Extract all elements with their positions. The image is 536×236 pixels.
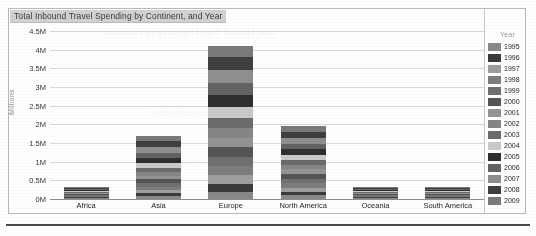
legend-label: 2003	[504, 131, 520, 139]
legend-label: 2009	[504, 197, 520, 205]
y-axis-tick: 2M	[36, 120, 46, 129]
x-axis-tick-labels: AfricaAsiaEuropeNorth AmericaOceaniaSout…	[50, 201, 484, 213]
bar-segment[interactable]	[208, 57, 253, 70]
legend-label: 1999	[504, 87, 520, 95]
legend-swatch	[488, 197, 501, 205]
legend-swatch	[488, 65, 501, 73]
legend-item[interactable]: 2001	[488, 107, 532, 118]
legend-item[interactable]: 1998	[488, 74, 532, 85]
y-axis-tick: 4M	[36, 45, 46, 54]
legend-swatch	[488, 175, 501, 183]
legend-item[interactable]: 1996	[488, 52, 532, 63]
legend-item[interactable]: 1999	[488, 85, 532, 96]
bar-segment[interactable]	[208, 83, 253, 95]
gridline	[50, 143, 484, 144]
legend-label: 1995	[504, 43, 520, 51]
bar-segment[interactable]	[208, 138, 253, 148]
gridline	[50, 124, 484, 125]
bar-segment[interactable]	[208, 118, 253, 128]
legend-label: 1996	[504, 54, 520, 62]
x-axis-tick: Asia	[151, 201, 166, 210]
bar-segment[interactable]	[208, 46, 253, 57]
y-axis-tick: 0M	[36, 195, 46, 204]
legend-swatch	[488, 120, 501, 128]
bar-segment[interactable]	[208, 166, 253, 175]
legend-label: 1997	[504, 65, 520, 73]
bar-segment[interactable]	[208, 95, 253, 106]
y-axis-tick: 1.5M	[29, 139, 46, 148]
legend-title: Year	[500, 31, 532, 38]
legend-label: 2001	[504, 109, 520, 117]
x-axis-tick: Oceania	[362, 201, 390, 210]
bar-segment[interactable]	[208, 70, 253, 83]
legend-item[interactable]: 2003	[488, 129, 532, 140]
x-axis-tick: North America	[279, 201, 327, 210]
page-horizontal-rule	[6, 224, 530, 226]
legend-label: 1998	[504, 76, 520, 84]
gridline	[50, 180, 484, 181]
legend-swatch	[488, 142, 501, 150]
legend-swatch	[488, 164, 501, 172]
x-axis-tick: Europe	[219, 201, 243, 210]
y-axis-tick-labels: 0M0.5M1M1.5M2M2.5M3M3.5M4M4.5M	[14, 31, 48, 199]
gridline	[50, 106, 484, 107]
gridline	[50, 162, 484, 163]
legend-item[interactable]: 2006	[488, 162, 532, 173]
legend-swatch	[488, 87, 501, 95]
plot-area	[50, 31, 484, 199]
bar-segment[interactable]	[208, 192, 253, 199]
legend-label: 2006	[504, 164, 520, 172]
y-axis-tick: 3M	[36, 83, 46, 92]
y-axis-tick: 2.5M	[29, 101, 46, 110]
legend-item[interactable]: 2008	[488, 184, 532, 195]
bar-segment[interactable]	[208, 128, 253, 138]
legend-item[interactable]: 2005	[488, 151, 532, 162]
gridline	[50, 50, 484, 51]
legend-item[interactable]: 1997	[488, 63, 532, 74]
bar-segment[interactable]	[208, 175, 253, 183]
bar-segment[interactable]	[208, 107, 253, 118]
legend-item[interactable]: 1995	[488, 41, 532, 52]
x-axis-line	[50, 199, 484, 200]
legend-label: 2008	[504, 186, 520, 194]
bar-stack[interactable]	[425, 187, 470, 199]
legend-swatch	[488, 43, 501, 51]
chart-legend: Year 19951996199719981999200020012002200…	[488, 31, 532, 206]
y-axis-tick: 1M	[36, 157, 46, 166]
legend-swatch	[488, 98, 501, 106]
legend-item[interactable]: 2000	[488, 96, 532, 107]
bar-stack[interactable]	[281, 126, 326, 199]
legend-divider	[484, 9, 485, 213]
legend-label: 2007	[504, 175, 520, 183]
gridline	[50, 68, 484, 69]
legend-swatch	[488, 76, 501, 84]
y-axis-tick: 4.5M	[29, 27, 46, 36]
legend-swatch	[488, 54, 501, 62]
legend-label: 2002	[504, 120, 520, 128]
x-axis-tick: Africa	[77, 201, 96, 210]
legend-swatch	[488, 153, 501, 161]
legend-item[interactable]: 2004	[488, 140, 532, 151]
legend-label: 2004	[504, 142, 520, 150]
legend-item[interactable]: 2002	[488, 118, 532, 129]
bar-segment[interactable]	[208, 184, 253, 192]
legend-swatch	[488, 109, 501, 117]
gridline	[50, 87, 484, 88]
y-axis-tick: 0.5M	[29, 176, 46, 185]
legend-item[interactable]: 2007	[488, 173, 532, 184]
legend-item[interactable]: 2009	[488, 195, 532, 206]
y-axis-tick: 3.5M	[29, 64, 46, 73]
legend-swatch	[488, 186, 501, 194]
bar-segment[interactable]	[208, 157, 253, 166]
x-axis-tick: South America	[423, 201, 472, 210]
legend-swatch	[488, 131, 501, 139]
bar-stack[interactable]	[353, 187, 398, 199]
bar-stack[interactable]	[208, 46, 253, 199]
bar-stack[interactable]	[64, 187, 109, 199]
legend-label: 2005	[504, 153, 520, 161]
chart-title: Total Inbound Travel Spending by Contine…	[10, 10, 226, 23]
bar-stack[interactable]	[136, 136, 181, 199]
bar-segment[interactable]	[208, 147, 253, 157]
legend-label: 2000	[504, 98, 520, 106]
gridline	[50, 31, 484, 32]
